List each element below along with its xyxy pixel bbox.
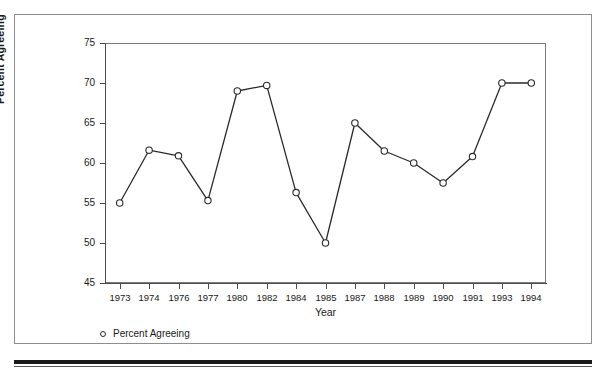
- x-tick-label: 1990: [426, 292, 460, 303]
- x-tick-mark: [120, 284, 121, 289]
- data-point: [293, 189, 299, 195]
- data-point: [411, 160, 417, 166]
- y-tick-label: 75: [71, 38, 95, 48]
- x-tick-mark: [384, 284, 385, 289]
- chart-figure: 45505560657075 1973197419761977198019821…: [0, 0, 608, 376]
- data-point: [469, 153, 475, 159]
- y-tick-label: 45: [71, 278, 95, 288]
- series-line-percent-agreeing: [120, 83, 532, 243]
- data-point: [440, 180, 446, 186]
- y-tick-label: 55: [71, 198, 95, 208]
- x-tick-label: 1980: [220, 292, 254, 303]
- x-tick-mark: [208, 284, 209, 289]
- x-axis-title: Year: [105, 306, 546, 318]
- x-tick-mark: [443, 284, 444, 289]
- data-point: [175, 153, 181, 159]
- x-tick-label: 1974: [132, 292, 166, 303]
- legend-marker-open-circle: [100, 331, 106, 337]
- x-tick-mark: [149, 284, 150, 289]
- x-tick-mark: [179, 284, 180, 289]
- legend-label: Percent Agreeing: [113, 328, 190, 339]
- x-tick-mark: [237, 284, 238, 289]
- y-axis-title: Percent Agreeing: [0, 0, 6, 104]
- footer-rule-thick: [14, 360, 592, 364]
- x-tick-label: 1984: [279, 292, 313, 303]
- x-tick-mark: [502, 284, 503, 289]
- series-markers: [117, 80, 535, 246]
- data-point: [117, 200, 123, 206]
- y-tick-label: 60: [71, 158, 95, 168]
- data-point: [264, 82, 270, 88]
- x-tick-mark: [326, 284, 327, 289]
- data-point: [146, 147, 152, 153]
- x-tick-mark: [355, 284, 356, 289]
- footer-rule-thin: [14, 366, 592, 367]
- chart-legend: Percent Agreeing: [100, 328, 190, 339]
- y-tick-label: 50: [71, 238, 95, 248]
- y-tick-label: 65: [71, 118, 95, 128]
- x-tick-mark: [414, 284, 415, 289]
- x-tick-label: 1994: [514, 292, 548, 303]
- data-point: [234, 88, 240, 94]
- x-tick-mark: [267, 284, 268, 289]
- y-tick-label: 70: [71, 78, 95, 88]
- data-point: [499, 80, 505, 86]
- data-point: [528, 80, 534, 86]
- data-series-plot: [105, 43, 546, 283]
- x-tick-mark: [531, 284, 532, 289]
- x-tick-mark: [296, 284, 297, 289]
- y-tick-mark: [100, 283, 105, 284]
- data-point: [205, 197, 211, 203]
- data-point: [322, 240, 328, 246]
- x-tick-label: 1988: [367, 292, 401, 303]
- data-point: [381, 148, 387, 154]
- x-tick-mark: [473, 284, 474, 289]
- data-point: [352, 120, 358, 126]
